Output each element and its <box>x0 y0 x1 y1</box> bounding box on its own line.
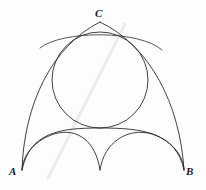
vertex-label-b: B <box>186 166 193 177</box>
diagonal-scan-streak-path <box>48 24 125 178</box>
geometry-figure: A B C <box>0 0 206 190</box>
tangent-chord-top <box>40 35 162 50</box>
vertex-label-c: C <box>95 8 102 19</box>
arc-c-to-b <box>100 22 184 170</box>
figure-canvas <box>0 0 206 190</box>
cusp-arc-right <box>100 132 184 170</box>
arc-a-to-b-upper <box>22 128 184 170</box>
vertex-label-a: A <box>9 166 16 177</box>
